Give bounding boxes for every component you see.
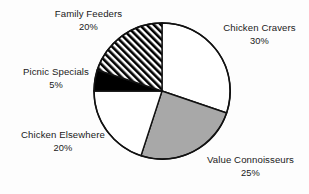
pie-label-value-connoisseurs-name: Value Connoisseurs	[192, 154, 309, 167]
pie-label-chicken-elsewhere-value: 20%	[8, 142, 118, 155]
pie-chart: Family Feeders 20% Chicken Cravers 30% P…	[0, 0, 309, 194]
pie-label-picnic-specials: Picnic Specials 5%	[6, 66, 106, 91]
pie-label-picnic-specials-name: Picnic Specials	[6, 66, 106, 79]
pie-label-chicken-elsewhere-name: Chicken Elsewhere	[8, 129, 118, 142]
pie-label-family-feeders-name: Family Feeders	[36, 8, 141, 21]
pie-label-chicken-cravers: Chicken Cravers 30%	[212, 22, 307, 47]
pie-label-chicken-cravers-value: 30%	[212, 35, 307, 48]
pie-label-chicken-elsewhere: Chicken Elsewhere 20%	[8, 129, 118, 154]
pie-label-value-connoisseurs: Value Connoisseurs 25%	[192, 154, 309, 179]
pie-label-picnic-specials-value: 5%	[6, 79, 106, 92]
pie-label-chicken-cravers-name: Chicken Cravers	[212, 22, 307, 35]
pie-label-value-connoisseurs-value: 25%	[192, 167, 309, 180]
pie-label-family-feeders-value: 20%	[36, 21, 141, 34]
pie-label-family-feeders: Family Feeders 20%	[36, 8, 141, 33]
